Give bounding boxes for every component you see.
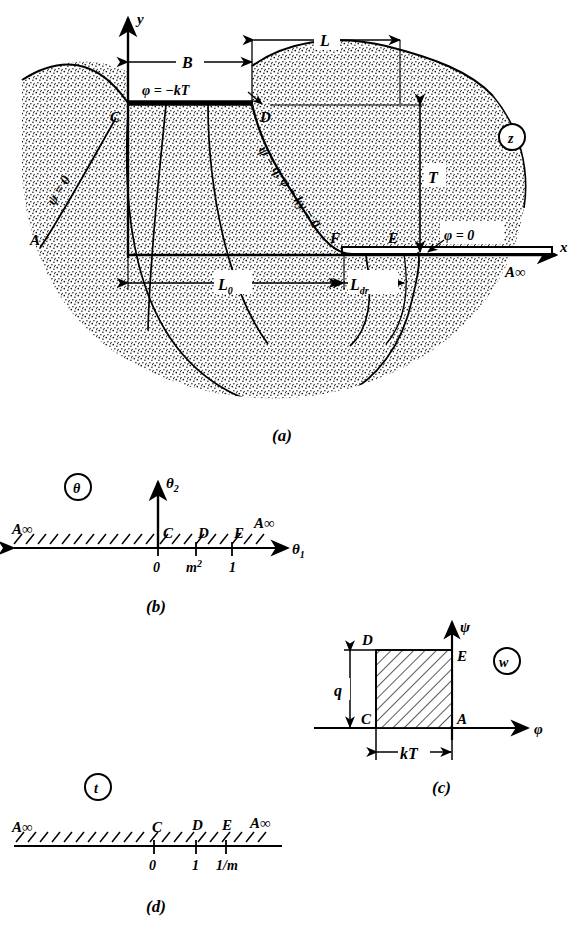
panel-a-z-plane: y x A∞ (22, 11, 568, 445)
dimension-q: q (332, 651, 350, 727)
t-value-1-over-m: 1/m (216, 858, 238, 873)
theta2-axis-label: θ2 (166, 475, 179, 494)
point-C: C (110, 109, 121, 125)
dimension-q-label: q (334, 682, 342, 700)
t-value-1: 1 (192, 858, 199, 873)
phi-axis-label: φ (534, 721, 543, 737)
axis-tick-values-t: 0 1 1/m (149, 858, 238, 873)
soil-region (22, 41, 526, 399)
dimension-T-label: T (428, 169, 439, 186)
theta-point-D: D (197, 525, 209, 541)
caption-c: (c) (432, 778, 451, 797)
theta-value-0: 0 (153, 560, 160, 575)
plane-marker-theta: θ (65, 474, 91, 500)
panel-c-w-plane: ψ φ D E C A q k (314, 619, 543, 797)
plane-marker-w: w (494, 648, 520, 674)
t-point-D: D (191, 817, 203, 833)
t-value-0: 0 (149, 858, 156, 873)
panel-d-t-plane: C D E 0 1 1/m A∞ A∞ t (d) (11, 774, 282, 916)
t-point-E: E (221, 817, 232, 833)
bc-phi-minus-kT-text: φ = −kT (142, 83, 191, 98)
a-infinity-label-z: A∞ (504, 264, 526, 280)
t-a-infinity-left: A∞ (11, 819, 33, 835)
psi-axis-label: ψ (460, 619, 471, 635)
point-labels-theta: C D E (163, 525, 244, 541)
axis-tick-values-theta: 0 m2 1 (153, 558, 236, 575)
theta-point-C: C (163, 525, 174, 541)
point-E: E (387, 230, 398, 246)
theta-a-infinity-left: A∞ (11, 521, 33, 537)
t-a-infinity-right: A∞ (249, 815, 271, 831)
point-F: F (329, 230, 340, 246)
y-axis-label: y (135, 11, 144, 27)
w-corner-D: D (361, 632, 373, 648)
point-labels-t: C D E (152, 817, 232, 835)
w-corner-E: E (456, 648, 467, 664)
point-A: A (29, 232, 40, 248)
caption-b: (b) (146, 597, 166, 616)
caption-a: (a) (272, 426, 292, 445)
plane-marker-w-text: w (499, 655, 509, 670)
theta1-axis-label: θ1 (292, 541, 305, 560)
dimension-B-label: B (181, 54, 193, 71)
w-corner-C: C (361, 711, 372, 727)
plane-marker-t: t (85, 774, 111, 800)
dimension-L-label: L (319, 32, 330, 49)
theta-value-1: 1 (229, 560, 236, 575)
caption-d: (d) (146, 897, 166, 916)
figure-svg: y x A∞ (0, 0, 581, 925)
panel-b-theta-plane: θ2 θ1 C D (11, 474, 305, 616)
axis-hatching-t (16, 832, 266, 842)
x-axis-label: x (559, 239, 568, 255)
axis-hatching-theta (14, 534, 264, 544)
theta-point-E: E (233, 525, 244, 541)
plane-marker-theta-text: θ (73, 481, 81, 496)
dimension-kT-label: kT (400, 745, 419, 762)
t-point-C: C (152, 819, 163, 835)
bc-phi-0-text: φ = 0 (444, 228, 474, 243)
figure-root: y x A∞ (0, 0, 581, 925)
w-corner-A: A (456, 711, 467, 727)
a-infinity-text: A∞ (504, 264, 526, 280)
drain-plate-FE (342, 247, 552, 254)
theta1-axis: θ1 (14, 541, 305, 560)
theta-value-m2: m2 (186, 558, 202, 575)
plane-marker-z-text: z (507, 131, 514, 146)
theta-a-infinity-right: A∞ (253, 515, 275, 531)
dimension-kT: kT (377, 741, 451, 763)
point-D: D (259, 109, 271, 125)
plane-marker-z: z (499, 124, 525, 150)
